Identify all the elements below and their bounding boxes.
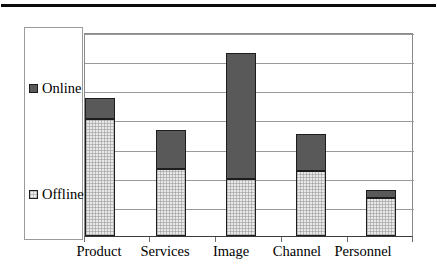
legend-entry-online[interactable]: Online bbox=[29, 80, 81, 96]
bar-image[interactable] bbox=[226, 54, 256, 236]
bar-segment-offline[interactable] bbox=[226, 179, 256, 236]
stacked-bar-chart-figure: Product Services Image Channel Personnel… bbox=[0, 0, 437, 279]
bar-segment-online[interactable] bbox=[85, 98, 115, 119]
chart-legend: Online Offline bbox=[24, 27, 83, 240]
legend-entry-offline[interactable]: Offline bbox=[29, 186, 84, 202]
legend-label-offline: Offline bbox=[42, 186, 84, 202]
bar-segment-offline[interactable] bbox=[296, 171, 326, 236]
bar-services[interactable] bbox=[156, 131, 186, 236]
plot-area bbox=[84, 33, 413, 237]
bar-segment-online[interactable] bbox=[366, 190, 396, 198]
bar-segment-offline[interactable] bbox=[366, 198, 396, 236]
bar-segment-offline[interactable] bbox=[85, 119, 115, 236]
legend-swatch-offline-icon bbox=[29, 190, 38, 199]
legend-swatch-online-icon bbox=[29, 84, 38, 93]
bar-channel[interactable] bbox=[296, 135, 326, 236]
bar-segment-online[interactable] bbox=[156, 130, 186, 169]
top-horizontal-rule bbox=[1, 4, 436, 7]
bar-segment-online[interactable] bbox=[296, 134, 326, 171]
gridline bbox=[85, 34, 414, 35]
bar-segment-offline[interactable] bbox=[156, 169, 186, 236]
axis-tick bbox=[412, 237, 413, 242]
legend-label-online: Online bbox=[42, 80, 81, 96]
bar-personnel[interactable] bbox=[366, 191, 396, 236]
category-label-personnel: Personnel bbox=[318, 242, 408, 260]
bar-segment-online[interactable] bbox=[226, 53, 256, 179]
bar-product[interactable] bbox=[85, 99, 115, 236]
